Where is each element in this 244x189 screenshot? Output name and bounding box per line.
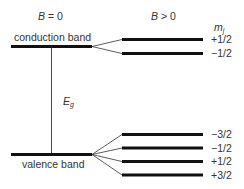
conduction-split-line-1 — [92, 40, 122, 47]
conduction-band-label: conduction band — [14, 31, 91, 43]
zeeman-diagram: B = 0 B > 0 mj conduction band +1/2 −1/2… — [0, 0, 244, 189]
mj-label-vb-2: +1/2 — [211, 155, 232, 167]
mj-label-vb-0: −3/2 — [211, 128, 232, 140]
conduction-split-line-2 — [92, 47, 122, 54]
mj-label-cb-1: −1/2 — [211, 47, 232, 59]
valence-split-line-4 — [92, 155, 122, 176]
band-gap-label: Eg — [63, 95, 74, 109]
header-b-zero: B = 0 — [38, 10, 63, 22]
valence-band-label: valence band — [22, 158, 85, 170]
mj-label-vb-1: −1/2 — [211, 142, 232, 154]
header-b-positive: B > 0 — [151, 10, 176, 22]
mj-label-cb-0: +1/2 — [211, 33, 232, 45]
mj-label-vb-3: +3/2 — [211, 169, 232, 181]
